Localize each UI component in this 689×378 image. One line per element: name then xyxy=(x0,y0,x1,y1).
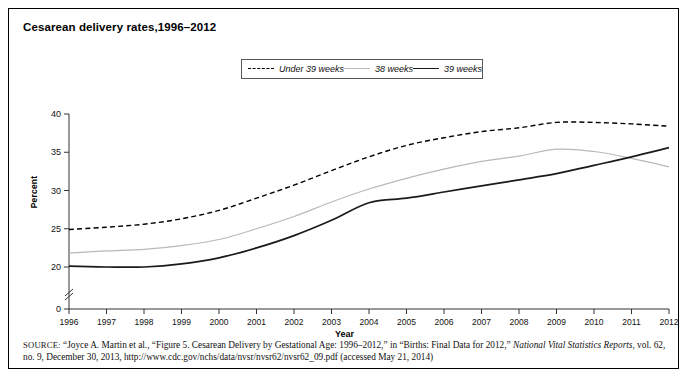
series-line-under-39-weeks xyxy=(69,122,669,230)
x-tick-label: 2007 xyxy=(472,317,491,327)
x-tick-label: 2010 xyxy=(585,317,604,327)
x-tick-label: 2005 xyxy=(397,317,416,327)
x-tick-label: 2012 xyxy=(660,317,679,327)
x-axis-label: Year xyxy=(9,329,680,339)
x-tick-label: 2000 xyxy=(210,317,229,327)
x-tick-label: 2004 xyxy=(360,317,379,327)
y-tick-label: 20 xyxy=(51,262,61,272)
source-note: SOURCE: “Joyce A. Martin et al., “Figure… xyxy=(23,340,668,363)
x-tick-label: 1997 xyxy=(97,317,116,327)
y-tick-label: 25 xyxy=(51,224,61,234)
x-tick-label: 2006 xyxy=(435,317,454,327)
y-tick-label: 40 xyxy=(51,109,61,119)
x-tick-label: 1998 xyxy=(135,317,154,327)
x-tick-label: 1996 xyxy=(60,317,79,327)
x-tick-label: 2003 xyxy=(322,317,341,327)
y-tick-label: 30 xyxy=(51,186,61,196)
plot-area: Percent 20253035400199619971998199920002… xyxy=(9,9,680,370)
source-text-part-1: “Joyce A. Martin et al., “Figure 5. Cesa… xyxy=(61,340,513,350)
line-chart: 2025303540019961997199819992000200120022… xyxy=(9,9,680,339)
series-line-38-weeks xyxy=(69,149,669,253)
x-tick-label: 2001 xyxy=(247,317,266,327)
x-tick-label: 2009 xyxy=(547,317,566,327)
figure-container: Cesarean delivery rates,1996–2012 Under … xyxy=(8,8,679,369)
series-line-39-weeks xyxy=(69,148,669,268)
y-tick-label-zero: 0 xyxy=(56,304,61,314)
x-tick-label: 2002 xyxy=(285,317,304,327)
y-tick-label: 35 xyxy=(51,147,61,157)
x-tick-label: 2011 xyxy=(622,317,641,327)
source-prefix: SOURCE: xyxy=(23,340,61,350)
x-tick-label: 2008 xyxy=(510,317,529,327)
x-tick-label: 1999 xyxy=(172,317,191,327)
source-publication-title: National Vital Statistics Reports xyxy=(513,340,632,350)
